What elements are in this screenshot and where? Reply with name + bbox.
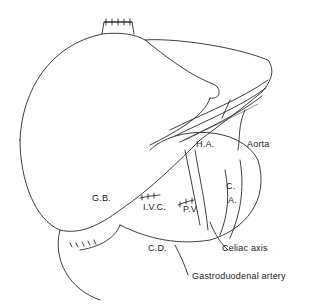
label-gallbladder: G.B.: [92, 193, 111, 203]
label-inferior-vena-cava: I.V.C.: [143, 202, 166, 212]
label-gastroduodenal-artery: Gastroduodenal artery: [192, 271, 286, 281]
label-celiac-artery-1: C.: [226, 181, 235, 191]
label-portal-vein: P.V.: [183, 204, 199, 214]
liver-illustration: [0, 0, 319, 306]
label-common-duct: C.D.: [148, 243, 167, 253]
label-aorta: Aorta: [247, 139, 270, 149]
label-celiac-artery-2: A.: [228, 195, 237, 205]
hilar-window: [120, 132, 261, 242]
label-celiac-axis: Celiac axis: [222, 243, 268, 253]
label-hepatic-artery: H.A.: [196, 139, 214, 149]
duodenum: [58, 230, 100, 300]
